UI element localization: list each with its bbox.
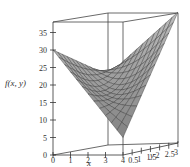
svg-text:35: 35 xyxy=(39,29,47,38)
svg-text:3: 3 xyxy=(174,148,178,157)
x-axis-label: x xyxy=(86,158,91,167)
svg-text:1: 1 xyxy=(137,155,141,164)
svg-text:2: 2 xyxy=(156,151,160,160)
svg-text:25: 25 xyxy=(39,64,47,73)
z-ticks: 05101520253035 xyxy=(39,29,56,161)
y-axis-label: y xyxy=(149,150,154,160)
svg-text:0: 0 xyxy=(43,151,47,160)
svg-text:1: 1 xyxy=(69,156,73,165)
svg-text:4: 4 xyxy=(121,156,125,165)
svg-text:10: 10 xyxy=(39,116,47,125)
svg-text:30: 30 xyxy=(39,46,47,55)
svg-text:20: 20 xyxy=(39,81,47,90)
svg-text:3: 3 xyxy=(104,156,108,165)
surface-plot: 05101520253035 01234 0.511.522.53 f(x, y… xyxy=(0,0,190,167)
surface-mesh xyxy=(53,12,178,137)
svg-text:5: 5 xyxy=(43,134,47,143)
z-axis-label: f(x, y) xyxy=(5,78,26,88)
svg-text:15: 15 xyxy=(39,99,47,108)
svg-text:0: 0 xyxy=(51,156,55,165)
